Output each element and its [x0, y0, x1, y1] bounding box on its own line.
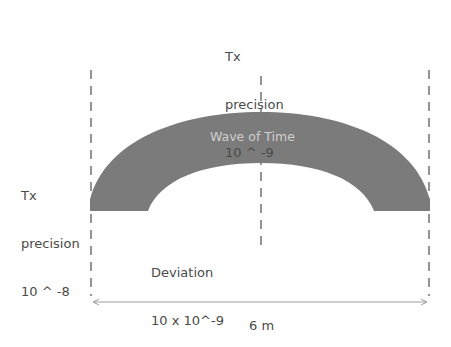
left-precision-line1: Tx — [21, 188, 80, 204]
dimension-label: 6 m — [249, 318, 274, 334]
deviation-line1: Deviation — [151, 265, 224, 281]
top-precision-line3: 10 ^ -9 — [225, 145, 284, 161]
top-precision-label: Tx precision 10 ^ -9 — [225, 17, 284, 177]
left-precision-label: Tx precision 10 ^ -8 — [21, 156, 80, 316]
top-precision-line1: Tx — [225, 49, 284, 65]
left-precision-line3: 10 ^ -8 — [21, 284, 80, 300]
left-precision-line2: precision — [21, 236, 80, 252]
deviation-label: Deviation 10 x 10^-9 — [151, 233, 224, 345]
top-precision-line2: precision — [225, 97, 284, 113]
deviation-line2: 10 x 10^-9 — [151, 313, 224, 329]
